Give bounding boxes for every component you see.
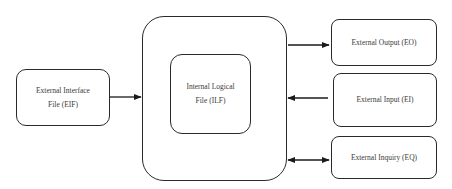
eq-label: External Inquiry (EQ)	[351, 151, 417, 165]
eo-label: External Output (EO)	[352, 36, 417, 50]
eif-label-line2: File (EIF)	[48, 98, 78, 112]
ilf-label-line2: File (ILF)	[196, 94, 226, 108]
external-input-box: External Input (EI)	[333, 73, 437, 127]
external-output-box: External Output (EO)	[331, 19, 437, 66]
external-inquiry-box: External Inquiry (EQ)	[331, 136, 437, 179]
ilf-label-line1: Internal Logical	[186, 80, 234, 94]
external-interface-file-box: External Interface File (EIF)	[16, 69, 110, 126]
eif-label-line1: External Interface	[36, 84, 90, 98]
ei-label: External Input (EI)	[356, 93, 413, 107]
internal-logical-file-box: Internal Logical File (ILF)	[170, 54, 251, 134]
